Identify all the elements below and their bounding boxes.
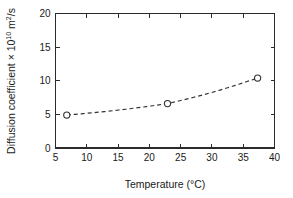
x-tick-label: 35 [238, 152, 250, 163]
y-tick-label: 15 [39, 42, 51, 53]
y-axis-title-prefix: Diffusion coefficient × 10 [5, 39, 17, 153]
x-tick-label: 30 [206, 152, 218, 163]
data-point-marker [164, 101, 170, 107]
x-tick-label: 5 [53, 152, 59, 163]
y-axis-title-suffix: /s [5, 8, 17, 16]
series-line-diffusion-coefficient [67, 78, 258, 115]
y-tick-label: 10 [39, 75, 51, 86]
y-tick-label: 20 [39, 8, 51, 19]
axes-border [56, 14, 275, 149]
x-tick-label: 10 [81, 152, 93, 163]
x-tick-label: 20 [144, 152, 156, 163]
y-axis-title-mid: m [5, 20, 17, 32]
data-point-marker [255, 75, 261, 81]
series-markers [64, 75, 261, 118]
y-tick-label: 0 [45, 143, 51, 154]
x-tick-label: 25 [175, 152, 187, 163]
diffusion-coefficient-line-chart: 510152025303540 05101520 Temperature (°C… [0, 0, 293, 198]
x-tick-label: 40 [269, 152, 281, 163]
y-tick-label: 5 [45, 109, 51, 120]
chart-figure: 510152025303540 05101520 Temperature (°C… [0, 0, 293, 198]
y-tick-labels: 05101520 [39, 8, 51, 154]
x-axis-ticks [87, 14, 243, 149]
y-axis-title-exponent: 10 [5, 32, 12, 40]
x-tick-labels: 510152025303540 [53, 152, 281, 163]
y-axis-title: Diffusion coefficient × 1010 m2/s [5, 8, 17, 154]
data-series-group [64, 75, 261, 118]
data-point-marker [64, 112, 70, 118]
plot-frame [56, 14, 275, 149]
x-axis-title: Temperature (°C) [125, 178, 206, 190]
x-tick-label: 15 [113, 152, 125, 163]
